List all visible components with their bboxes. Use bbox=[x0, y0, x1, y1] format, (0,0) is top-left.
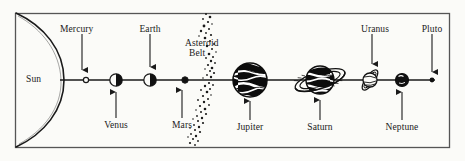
planet-mercury bbox=[83, 77, 88, 82]
label-jupiter: Jupiter bbox=[237, 122, 264, 132]
label-mars: Mars bbox=[172, 120, 192, 130]
label-venus: Venus bbox=[104, 120, 128, 130]
solar-system-diagram: Sun Mercury Venus Earth Mars Asteroid Be… bbox=[0, 0, 465, 161]
label-asteroid-belt-line1: Asteroid bbox=[185, 38, 219, 48]
planet-uranus bbox=[359, 68, 380, 93]
label-asteroid-belt-line2: Belt bbox=[189, 48, 205, 58]
label-earth: Earth bbox=[139, 24, 160, 34]
label-mercury: Mercury bbox=[60, 24, 93, 34]
label-pluto: Pluto bbox=[422, 24, 443, 34]
planet-neptune bbox=[396, 74, 409, 87]
planet-earth bbox=[144, 74, 156, 86]
label-neptune: Neptune bbox=[386, 122, 419, 132]
planet-jupiter bbox=[232, 63, 270, 97]
label-sun: Sun bbox=[26, 74, 41, 84]
planet-pluto bbox=[430, 78, 435, 83]
planet-mars bbox=[182, 77, 188, 83]
planet-venus bbox=[110, 74, 122, 86]
label-saturn: Saturn bbox=[307, 122, 332, 132]
label-uranus: Uranus bbox=[361, 24, 389, 34]
planet-saturn bbox=[292, 62, 348, 97]
